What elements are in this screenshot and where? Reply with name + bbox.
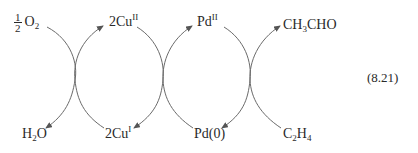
- fraction-one-half: 12: [14, 12, 22, 33]
- species-copper-i: 2CuI: [105, 126, 131, 142]
- species-acetaldehyde: CH3CHO: [283, 17, 337, 33]
- arrow-pd2-to-pd0: [222, 27, 250, 128]
- arrow-pd0-to-pd2: [163, 26, 193, 128]
- arrow-cu2-to-cu1: [134, 27, 163, 128]
- arrow-c2h4-to-ch3cho: [250, 26, 281, 128]
- arrow-o2-to-h2o: [46, 27, 76, 128]
- species-palladium-ii: PdII: [197, 14, 218, 30]
- equation-number: (8.21): [367, 70, 398, 86]
- species-copper-ii: 2CuII: [109, 14, 138, 30]
- species-water: H2O: [22, 126, 47, 142]
- species-palladium-zero: Pd(0): [194, 126, 225, 142]
- species-half-oxygen: 12O2: [14, 12, 39, 33]
- arrow-cu1-to-cu2: [75, 26, 104, 128]
- species-ethylene: C2H4: [283, 126, 311, 142]
